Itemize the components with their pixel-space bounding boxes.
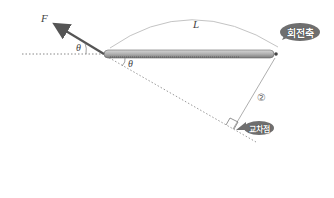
angle-label-bottom: θ — [128, 58, 133, 69]
angle-arc-top — [85, 43, 86, 54]
force-label: F — [41, 12, 48, 24]
perpendicular-line — [233, 58, 275, 129]
torque-diagram: F L θ θ 회전축 교차점 ② — [0, 0, 334, 198]
pivot-point — [274, 52, 278, 56]
intersection-bubble: 교차점 — [244, 121, 274, 135]
length-label: L — [193, 18, 199, 30]
pivot-bubble: 회전축 — [280, 23, 320, 41]
angle-arc-bottom — [122, 58, 125, 66]
perpendicular-number: ② — [257, 92, 266, 103]
angle-label-top: θ — [76, 42, 81, 53]
